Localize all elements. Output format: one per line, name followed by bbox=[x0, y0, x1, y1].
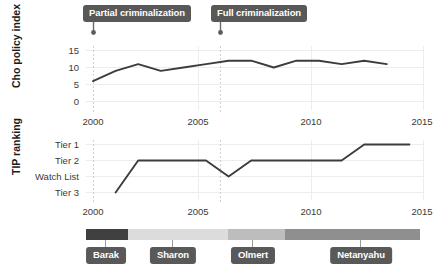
policy-timeline-figure: 15 10 5 0 2000 2005 2010 2015 Cho policy… bbox=[0, 0, 433, 270]
bottom-ytick-tier2: Tier 2 bbox=[55, 155, 79, 166]
top-ytick-5: 5 bbox=[74, 79, 79, 90]
bottom-vertical-gridlines bbox=[199, 140, 424, 200]
bottom-xtick-2000: 2000 bbox=[82, 206, 103, 217]
pm-segment-sharon bbox=[128, 229, 228, 240]
tip-ranking-line bbox=[116, 145, 410, 193]
top-panel: 15 10 5 0 2000 2005 2010 2015 Cho policy… bbox=[10, 4, 433, 127]
bottom-gridlines bbox=[86, 145, 424, 193]
bottom-event-lines bbox=[94, 140, 221, 203]
pm-label-olmert: Olmert bbox=[231, 247, 275, 264]
bottom-ytick-tier1: Tier 1 bbox=[55, 139, 79, 150]
bottom-xtick-2005: 2005 bbox=[187, 206, 208, 217]
top-ytick-10: 10 bbox=[68, 62, 79, 73]
pm-label-sharon: Sharon bbox=[150, 247, 196, 264]
pm-segment-olmert bbox=[228, 229, 285, 240]
pm-label-barak: Barak bbox=[86, 247, 126, 264]
top-xtick-2000: 2000 bbox=[82, 116, 103, 127]
bottom-xtick-2015: 2015 bbox=[411, 206, 432, 217]
top-xtick-2015: 2015 bbox=[411, 116, 432, 127]
bottom-ytick-watchlist: Watch List bbox=[35, 171, 79, 182]
top-gridlines bbox=[86, 51, 424, 102]
top-vertical-gridlines bbox=[199, 46, 424, 110]
chart-canvas: 15 10 5 0 2000 2005 2010 2015 Cho policy… bbox=[0, 0, 433, 270]
top-ytick-15: 15 bbox=[68, 45, 79, 56]
top-xtick-2005: 2005 bbox=[187, 116, 208, 127]
top-event-lines bbox=[94, 46, 221, 113]
annotation-partial-criminalization: Partial criminalization bbox=[83, 5, 191, 22]
pm-label-netanyahu: Netanyahu bbox=[330, 247, 392, 264]
top-xtick-2010: 2010 bbox=[300, 116, 321, 127]
event-pin-partial bbox=[91, 22, 96, 35]
event-pin-full bbox=[218, 22, 223, 35]
cho-policy-index-line bbox=[93, 61, 387, 81]
pm-timeline-bar bbox=[86, 229, 420, 248]
bottom-axis-title: TIP ranking bbox=[10, 118, 22, 175]
bottom-panel: Tier 1 Tier 2 Watch List Tier 3 2000 200… bbox=[10, 118, 433, 217]
bottom-ytick-tier3: Tier 3 bbox=[55, 187, 79, 198]
annotation-full-criminalization: Full criminalization bbox=[211, 5, 307, 22]
top-ytick-0: 0 bbox=[74, 96, 79, 107]
pm-segment-netanyahu bbox=[285, 229, 420, 240]
pm-segment-barak bbox=[86, 229, 128, 240]
bottom-xtick-2010: 2010 bbox=[300, 206, 321, 217]
top-axis-title: Cho policy index bbox=[10, 4, 22, 88]
